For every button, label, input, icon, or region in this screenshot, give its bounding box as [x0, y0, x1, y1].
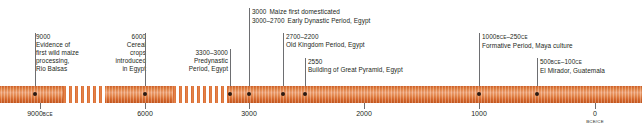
- event-text-line: Formative Period, Maya culture: [482, 42, 573, 50]
- event-dot-great-pyramid: [303, 92, 307, 96]
- event-label-old-kingdom-egypt: 2700–2200 Old Kingdom Period, Egypt: [286, 33, 365, 49]
- event-year-value: 500: [540, 58, 551, 65]
- event-era: bce: [551, 60, 561, 65]
- leader-line-maize-domesticated: [249, 8, 250, 94]
- event-dot-el-mirador: [535, 92, 539, 96]
- event-year-value-2: –100: [561, 58, 575, 65]
- leader-line-cereal-crops-egypt: [145, 33, 146, 94]
- event-text-line: first wild maize: [36, 49, 79, 57]
- event-text-line: Building of Great Pyramid, Egypt: [308, 66, 403, 74]
- event-dot-old-kingdom-egypt: [281, 92, 285, 96]
- timeline-bar-break: [63, 86, 105, 103]
- axis-tick: [479, 103, 480, 109]
- axis-era-note: bce/ce: [586, 119, 604, 124]
- event-year-value: 1000: [482, 33, 496, 40]
- event-dot-predynastic-egypt: [228, 92, 232, 96]
- event-text-line: El Mirador, Guatemala: [540, 67, 605, 75]
- event-label-cereal-crops-egypt: 6000 Cereal crops introduced in Egypt: [86, 33, 146, 73]
- leader-line-formative-maya: [479, 33, 480, 94]
- event-dot-maize-domesticated: [247, 92, 251, 96]
- event-year: 3000: [252, 8, 266, 15]
- event-label-maize-rio-balsas: 9000 Evidence of first wild maize proces…: [36, 33, 79, 73]
- event-text-line: Predynastic: [170, 57, 228, 65]
- event-text-line: processing,: [36, 57, 79, 65]
- event-label-early-dynastic-egypt: 3000–2700Early Dynastic Period, Egypt: [252, 17, 370, 25]
- event-era: ce: [575, 60, 582, 65]
- axis-tick: [40, 103, 41, 109]
- event-text-line: Period, Egypt: [170, 65, 228, 73]
- event-text-line: Maize first domesticated: [269, 8, 339, 15]
- leader-line-old-kingdom-egypt: [283, 33, 284, 94]
- event-year: 2700–2200: [286, 33, 365, 41]
- axis-label-2000: 2000: [356, 110, 372, 118]
- event-text-line: in Egypt: [86, 65, 146, 73]
- event-text-line: Early Dynastic Period, Egypt: [288, 17, 371, 24]
- axis-label-9000: 9000bce: [27, 110, 53, 119]
- event-era: ce: [521, 35, 528, 40]
- event-year: 500bce–100ce: [540, 58, 605, 67]
- axis-label-6000: 6000: [137, 110, 153, 118]
- event-dot-cereal-crops-egypt: [143, 92, 147, 96]
- axis-label-era: bce: [43, 112, 53, 117]
- timeline-bar-break: [173, 86, 228, 103]
- axis-tick: [595, 103, 596, 109]
- axis-tick: [249, 103, 250, 109]
- axis-label-3000: 3000: [241, 110, 257, 118]
- event-dot-maize-rio-balsas: [33, 92, 37, 96]
- axis-label-1000: 1000: [471, 110, 487, 118]
- axis-label-value: 9000: [27, 110, 43, 117]
- event-label-formative-maya: 1000bce–250ce Formative Period, Maya cul…: [482, 33, 573, 50]
- axis-label-0: 0: [593, 110, 597, 118]
- event-year: 2550: [308, 58, 403, 66]
- event-text-line: crops: [86, 49, 146, 57]
- axis-tick: [145, 103, 146, 109]
- event-dot-formative-maya: [477, 92, 481, 96]
- leader-line-maize-rio-balsas: [35, 33, 36, 94]
- event-year: 6000: [86, 33, 146, 41]
- timeline-bar: [0, 86, 642, 103]
- event-text-line: Evidence of: [36, 41, 79, 49]
- event-year: 3300–3000: [170, 49, 228, 57]
- event-label-predynastic-egypt: 3300–3000 Predynastic Period, Egypt: [170, 49, 228, 73]
- event-text-line: Cereal: [86, 41, 146, 49]
- event-label-el-mirador: 500bce–100ce El Mirador, Guatemala: [540, 58, 605, 75]
- event-year: 3000–2700: [252, 17, 285, 24]
- timeline-figure: 9000 Evidence of first wild maize proces…: [0, 0, 642, 128]
- event-year-value-2: –250: [506, 33, 520, 40]
- event-text-line: Old Kingdom Period, Egypt: [286, 41, 365, 49]
- event-text-line: Rio Balsas: [36, 65, 79, 73]
- axis-tick: [364, 103, 365, 109]
- event-text-line: introduced: [86, 57, 146, 65]
- event-label-great-pyramid: 2550 Building of Great Pyramid, Egypt: [308, 58, 403, 74]
- event-year: 1000bce–250ce: [482, 33, 573, 42]
- event-label-maize-domesticated: 3000Maize first domesticated: [252, 8, 340, 16]
- event-year: 9000: [36, 33, 79, 41]
- event-era: bce: [496, 35, 506, 40]
